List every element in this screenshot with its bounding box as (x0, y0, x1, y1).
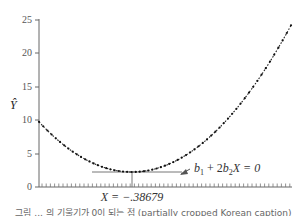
curve-markers (38, 24, 292, 173)
y-tick-label-0: 0 (27, 181, 32, 192)
y-tick-label-10: 10 (22, 114, 32, 125)
y-ticks (35, 20, 39, 187)
y-axis-label: Ŷ (10, 98, 18, 112)
y-tick-label-5: 5 (27, 148, 32, 159)
minimum-x-label: X = −.38679 (100, 190, 164, 204)
figure-caption: 그림 ... 의 기울기가 0이 되는 점 (partially cropped… (0, 206, 307, 216)
slope-zero-annotation: b1 + 2b2X = 0 (194, 161, 260, 177)
x-ticks (42, 184, 290, 188)
fitted-curve (39, 25, 291, 172)
quadratic-chart: 0 5 10 15 20 25 Ŷ b1 + 2b2X = 0 X = −.38… (0, 0, 307, 216)
y-tick-label-20: 20 (22, 47, 32, 58)
y-tick-label-15: 15 (22, 81, 32, 92)
y-tick-label-25: 25 (22, 14, 32, 25)
